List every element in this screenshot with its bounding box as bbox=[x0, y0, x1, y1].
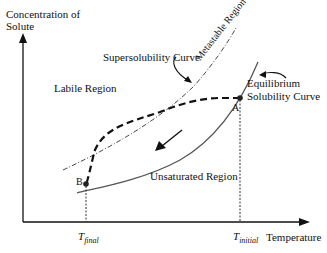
equilibrium-curve-label-line2: Solubility Curve bbox=[247, 90, 320, 103]
point-a-label: A bbox=[232, 101, 239, 114]
x-axis-label: Temperature bbox=[266, 231, 321, 244]
x-axis-arrow-icon bbox=[299, 218, 310, 226]
t-initial-label: Tinitial bbox=[233, 230, 258, 247]
t-final-label: Tfinal bbox=[78, 230, 99, 247]
supersolubility-curve-label: Supersolubility Curve bbox=[103, 51, 200, 64]
point-a bbox=[237, 95, 243, 101]
direction-arrow bbox=[162, 130, 182, 146]
y-axis-arrow-icon bbox=[19, 33, 27, 43]
y-axis-label-line2: Solute bbox=[6, 20, 34, 33]
point-b bbox=[83, 181, 89, 187]
equilibrium-curve-label-line1: Equilibrium bbox=[247, 77, 300, 90]
unsaturated-region-label: Unsaturated Region bbox=[150, 170, 238, 183]
crystallization-diagram bbox=[0, 0, 327, 253]
t-initial-sub: initial bbox=[239, 236, 258, 245]
point-b-label: B bbox=[76, 175, 83, 188]
labile-region-label: Labile Region bbox=[54, 82, 117, 95]
t-final-sub: final bbox=[84, 236, 99, 245]
direction-arrow-head-icon bbox=[155, 141, 166, 151]
